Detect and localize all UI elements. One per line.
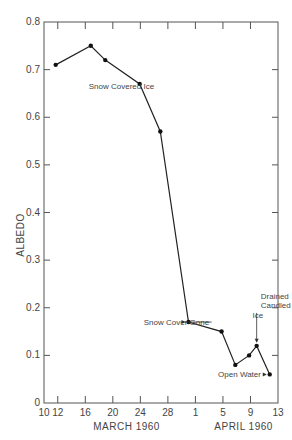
x-tick-label: 9: [248, 407, 254, 418]
data-point: [254, 344, 258, 348]
y-tick-label: 0.8: [26, 16, 40, 27]
data-point: [89, 44, 93, 48]
annotation-label: Snow Covered Ice: [89, 82, 155, 91]
y-tick-label: 0.3: [26, 254, 40, 265]
arrow-head-icon: [263, 372, 267, 376]
y-tick-label: 0.4: [26, 207, 40, 218]
x-tick-label: 10: [38, 407, 50, 418]
y-tick-label: 0.6: [26, 111, 40, 122]
annotation-label: Snow Cover Gone: [144, 318, 210, 327]
x-tick-label: 5: [220, 407, 226, 418]
albedo-chart: 00.10.20.30.40.50.60.70.8 10121620242815…: [0, 0, 292, 440]
x-tick-label: 12: [52, 407, 64, 418]
data-point: [268, 372, 272, 376]
y-tick-label: 0.5: [26, 159, 40, 170]
annotation-label: Open Water: [218, 370, 261, 379]
data-point: [103, 58, 107, 62]
annotation-label: Ice: [253, 311, 264, 320]
x-group-label: MARCH 1960: [93, 421, 160, 432]
x-group-label: APRIL 1960: [214, 421, 273, 432]
y-axis-ticks: 00.10.20.30.40.50.60.70.8: [26, 16, 278, 408]
plot-frame: [44, 22, 278, 403]
x-tick-label: 28: [162, 407, 174, 418]
data-point: [158, 129, 162, 133]
data-point: [54, 63, 58, 67]
x-tick-label: 13: [272, 407, 284, 418]
y-axis-label: ALBEDO: [15, 213, 26, 257]
annotations: Snow Covered IceSnow Cover GoneDrainedCa…: [89, 82, 291, 379]
data-point: [247, 353, 251, 357]
x-tick-label: 16: [80, 407, 92, 418]
y-tick-label: 0.1: [26, 349, 40, 360]
x-tick-label: 20: [107, 407, 119, 418]
annotation-label: Candled: [261, 301, 291, 310]
axes: [44, 22, 278, 403]
x-tick-label: 24: [135, 407, 147, 418]
arrow-head-icon: [255, 339, 259, 343]
y-tick-label: 0.2: [26, 302, 40, 313]
annotation-label: Drained: [261, 292, 289, 301]
data-point: [219, 329, 223, 333]
y-tick-label: 0.7: [26, 64, 40, 75]
x-tick-label: 1: [193, 407, 199, 418]
data-point: [233, 363, 237, 367]
